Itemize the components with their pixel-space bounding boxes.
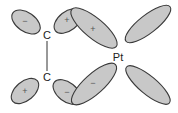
lobe-sign: − bbox=[90, 78, 95, 88]
carbon-bottom-label: C bbox=[43, 71, 51, 83]
carbon-top-label: C bbox=[43, 29, 51, 41]
lobe-sign: − bbox=[22, 16, 27, 26]
pt-upper-right-lobe bbox=[120, 0, 175, 48]
orbital-diagram: − + + + − − C C Pt bbox=[0, 0, 178, 113]
c-bottom-left-lobe: + bbox=[7, 73, 44, 108]
c-top-left-lobe: − bbox=[7, 5, 44, 39]
pt-lower-left-lobe: − bbox=[66, 57, 122, 111]
lobe-sign: + bbox=[22, 86, 27, 96]
platinum-label: Pt bbox=[113, 51, 123, 63]
pt-lower-right-lobe bbox=[121, 60, 175, 110]
lobe-sign: − bbox=[64, 87, 69, 97]
lobe-sign: + bbox=[64, 15, 69, 25]
lobe-sign: + bbox=[90, 24, 95, 34]
